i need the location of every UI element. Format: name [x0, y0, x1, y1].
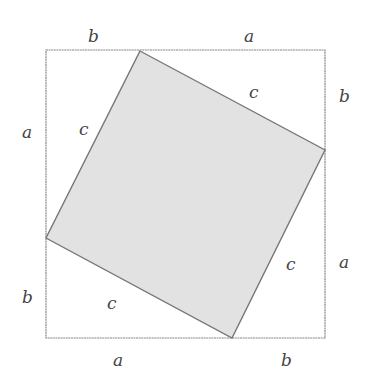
label-top-b: b — [88, 26, 99, 46]
label-right-b: b — [339, 86, 350, 106]
label-inner-c-topright: c — [249, 82, 259, 102]
label-inner-c-right: c — [286, 254, 296, 274]
label-right-a: a — [339, 252, 349, 272]
label-inner-c-topleft: c — [79, 119, 89, 139]
label-bottom-b: b — [281, 350, 292, 370]
pythagorean-diagram: babaababcccc — [0, 0, 369, 388]
label-bottom-a: a — [113, 350, 123, 370]
label-left-a: a — [22, 122, 32, 142]
label-inner-c-bottom: c — [107, 293, 117, 313]
label-left-b: b — [22, 287, 33, 307]
inner-tilted-square — [46, 51, 325, 338]
label-top-a: a — [244, 26, 254, 46]
